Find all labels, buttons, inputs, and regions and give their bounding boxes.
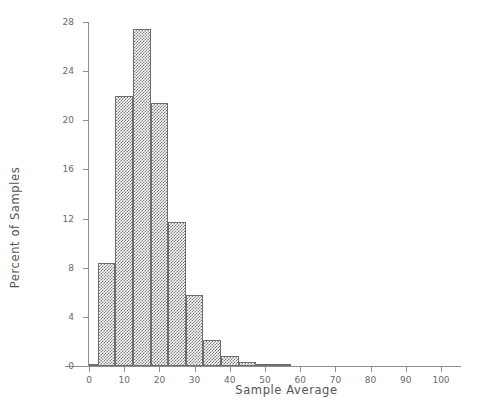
y-tick-mark: [83, 120, 88, 121]
y-tick-label: 8: [68, 263, 74, 273]
histogram-bar: [203, 340, 221, 366]
x-tick-mark: [441, 367, 442, 372]
y-tick-label: 24: [63, 66, 74, 76]
histogram-bar: [186, 295, 204, 366]
y-tick-label: 20: [63, 115, 74, 125]
y-tick-mark: [83, 71, 88, 72]
x-tick-mark: [124, 367, 125, 372]
histogram-bar: [274, 364, 292, 366]
y-axis-label-text: Percent of Samples: [8, 167, 22, 289]
histogram-bar: [133, 29, 151, 366]
histogram-bar: [151, 103, 169, 366]
histogram-bar: [115, 96, 133, 366]
histogram-figure: Percent of Samples 0481216202428 0102030…: [0, 0, 487, 411]
x-tick-mark: [300, 367, 301, 372]
x-tick-mark: [159, 367, 160, 372]
plot-area: 0481216202428 0102030405060708090100: [89, 22, 441, 366]
y-tick-label: 28: [63, 17, 74, 27]
y-tick-mark: [83, 219, 88, 220]
y-tick-mark: [83, 268, 88, 269]
y-axis-label: Percent of Samples: [0, 0, 30, 411]
histogram-bar: [168, 222, 186, 366]
histogram-bar: [221, 356, 239, 366]
y-tick-mark: [83, 366, 88, 367]
y-tick-label: 16: [63, 164, 74, 174]
x-tick-mark: [265, 367, 266, 372]
x-tick-mark: [230, 367, 231, 372]
y-tick-mark: [83, 317, 88, 318]
x-tick-mark: [371, 367, 372, 372]
histogram-bar: [256, 364, 274, 366]
x-axis-label-text: Sample Average: [235, 383, 337, 397]
histogram-bar: [239, 362, 257, 366]
y-tick-mark: [83, 169, 88, 170]
x-axis-label: Sample Average: [0, 383, 487, 397]
x-tick-mark: [195, 367, 196, 372]
y-tick-mark: [83, 22, 88, 23]
y-tick-label: 12: [63, 214, 74, 224]
x-tick-mark: [335, 367, 336, 372]
x-tick-mark: [406, 367, 407, 372]
histogram-bars: [89, 22, 441, 366]
x-tick-mark: [89, 367, 90, 372]
histogram-bar: [98, 263, 116, 366]
histogram-bar: [89, 364, 98, 366]
y-tick-label: 0: [68, 361, 74, 371]
y-tick-label: 4: [68, 312, 74, 322]
